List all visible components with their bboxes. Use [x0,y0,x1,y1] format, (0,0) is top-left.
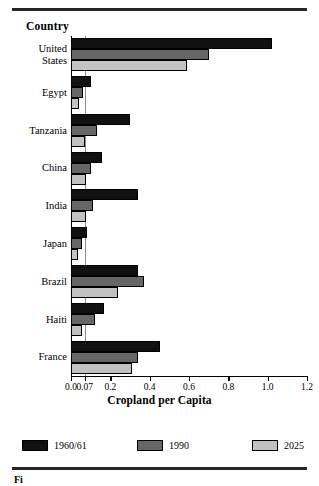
x-tick [268,376,269,381]
x-tick [150,376,151,381]
plot-area [71,36,307,376]
x-tick [71,376,72,381]
bar-tanzania-1990 [71,125,97,136]
x-tick [110,376,111,381]
bar-france-1960-61 [71,341,160,352]
category-label: France [5,351,71,363]
bar-india-1960-61 [71,189,138,200]
bar-brazil-1960-61 [71,265,138,276]
bar-brazil-1990 [71,276,144,287]
y-axis-title: Country [26,20,69,32]
x-axis-title: Cropland per Capita [0,394,319,406]
bar-group [71,74,307,112]
legend-label: 1960/61 [54,440,87,451]
bar-france-2025 [71,363,132,374]
bar-group [71,263,307,301]
category-label: Egypt [5,87,71,99]
legend-item-1960-61[interactable]: 1960/61 [22,440,87,451]
legend-swatch [22,440,48,451]
x-tick [307,376,308,381]
bar-haiti-2025 [71,325,82,336]
bar-france-1990 [71,352,138,363]
bar-tanzania-2025 [71,136,85,147]
bar-haiti-1990 [71,314,95,325]
bar-group [71,225,307,263]
bar-united-states-2025 [71,60,187,71]
bar-haiti-1960-61 [71,303,104,314]
x-tick-label: 1.0 [262,382,274,392]
x-tick-label: 0.8 [222,382,234,392]
bottom-divider [12,467,307,470]
bar-united-states-1960-61 [71,38,272,49]
bar-india-1990 [71,200,93,211]
x-tick-label: 0.4 [144,382,156,392]
bar-group [71,149,307,187]
x-tick-label: 0.6 [183,382,195,392]
x-tick-label: 0.2 [104,382,116,392]
legend-label: 2025 [284,440,304,451]
legend-item-2025[interactable]: 2025 [252,440,304,451]
category-label: UnitedStates [5,43,71,66]
category-labels: UnitedStatesEgyptTanzaniaChinaIndiaJapan… [0,36,71,377]
bar-japan-2025 [71,249,78,260]
category-label: Tanzania [5,125,71,137]
bar-group [71,338,307,376]
legend-item-1990[interactable]: 1990 [137,440,189,451]
bar-egypt-1990 [71,87,83,98]
bar-japan-1990 [71,238,82,249]
bar-group [71,300,307,338]
bar-china-1960-61 [71,152,102,163]
x-tick-label: 1.2 [301,382,313,392]
category-label: China [5,162,71,174]
x-tick-label: 0.0 [65,382,77,392]
category-label: Haiti [5,314,71,326]
x-tick [85,376,86,381]
bar-japan-1960-61 [71,227,87,238]
figure-page: Country UnitedStatesEgyptTanzaniaChinaIn… [0,0,319,486]
legend-swatch [137,440,163,451]
top-divider [12,8,307,11]
category-label: India [5,200,71,212]
bar-group [71,36,307,74]
bar-egypt-2025 [71,98,79,109]
category-label: Japan [5,238,71,250]
x-tick [228,376,229,381]
bar-united-states-1990 [71,49,209,60]
bar-china-1990 [71,163,91,174]
x-tick [189,376,190,381]
bar-brazil-2025 [71,287,118,298]
chart-legend: 1960/6119902025 [0,440,319,458]
figure-caption: Fi [14,474,23,485]
category-label: Brazil [5,276,71,288]
bar-india-2025 [71,211,86,222]
x-tick-label: 0.07 [76,382,93,392]
bar-egypt-1960-61 [71,76,91,87]
legend-swatch [252,440,278,451]
legend-label: 1990 [169,440,189,451]
bar-china-2025 [71,174,86,185]
bar-group [71,112,307,150]
bar-chart: Country UnitedStatesEgyptTanzaniaChinaIn… [0,18,319,386]
bar-group [71,187,307,225]
bar-tanzania-1960-61 [71,114,130,125]
